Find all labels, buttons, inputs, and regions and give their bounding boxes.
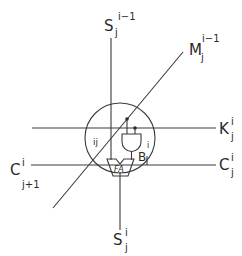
c-in-label-sub: j [230,167,234,178]
b-label-sup: i [147,141,149,150]
c-in-label-base: C [219,156,229,174]
b-label-base: B [138,150,146,164]
m-label-sup: i−1 [202,33,220,44]
and-gate [122,134,141,152]
k-label-sub: j [230,131,234,142]
c-out-label-sub: j+1 [21,179,40,190]
s-in-label-sub: j [114,27,118,38]
fa-label: FA [114,165,124,174]
s-in-label-base: S [104,17,114,35]
c-out-label-base: C [10,161,20,179]
s-in-label-sup: i−1 [118,11,136,22]
m-diagonal-line [53,52,183,208]
s-out-label-sup: i [125,227,128,238]
cell-diagram: FA ij B i S j i−1 M j i−1 K j i C j i C … [0,0,242,256]
k-label-base: K [219,120,230,138]
s-out-label-base: S [113,231,123,249]
k-label-sup: i [231,116,234,127]
m-label-base: M [189,41,202,59]
c-in-label-sup: i [231,152,234,163]
c-out-label-sup: i [22,157,25,168]
s-out-label-sub: j [124,242,128,253]
cell-index-label: ij [93,137,98,147]
m-label-sub: j [200,52,204,63]
